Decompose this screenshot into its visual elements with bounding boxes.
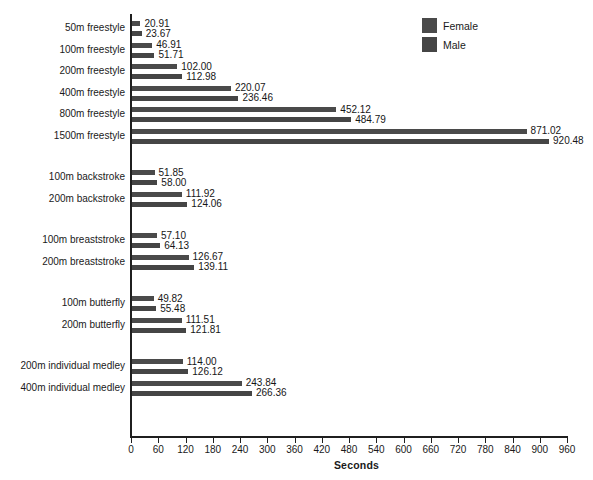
x-tick-label: 180 [204, 444, 221, 456]
bar-male-200m-freestyle [131, 74, 182, 79]
x-tick-label: 660 [422, 444, 439, 456]
bar-female-100m-butterfly [131, 296, 154, 301]
x-tick [267, 437, 268, 443]
category-label-200m-butterfly: 200m butterfly [0, 319, 125, 330]
x-axis-title-text: Seconds [334, 459, 379, 471]
bar-value-label: 139.11 [198, 261, 228, 272]
bar-female-100m-backstroke [131, 170, 155, 175]
category-label-200m-backstroke: 200m backstroke [0, 193, 125, 204]
bar-male-100m-backstroke [131, 180, 157, 185]
bar-value-label: 920.48 [553, 135, 584, 146]
x-tick [131, 437, 132, 443]
bar-female-400m-freestyle [131, 86, 231, 91]
bar-female-100m-breaststroke [131, 233, 157, 238]
legend-item-female: Female [422, 16, 478, 35]
category-label-100m-freestyle: 100m freestyle [0, 44, 125, 55]
category-label-100m-breaststroke: 100m breaststroke [0, 234, 125, 245]
bar-value-label: 112.98 [186, 71, 216, 82]
bar-value-label: 236.46 [242, 92, 273, 103]
x-tick [567, 437, 568, 443]
category-label-100m-backstroke: 100m backstroke [0, 171, 125, 182]
category-label-400m-freestyle: 400m freestyle [0, 87, 125, 98]
y-axis-line [130, 14, 132, 437]
bar-value-label: 58.00 [161, 177, 186, 188]
bar-female-200m-breaststroke [131, 255, 189, 260]
x-tick-label: 480 [341, 444, 358, 456]
x-tick [431, 437, 432, 443]
bar-value-label: 64.13 [164, 240, 189, 251]
x-tick [404, 437, 405, 443]
x-tick-label: 300 [259, 444, 276, 456]
bar-value-label: 55.48 [160, 303, 185, 314]
bar-value-label: 266.36 [256, 387, 287, 398]
bar-male-50m-freestyle [131, 31, 142, 36]
category-label-800m-freestyle: 800m freestyle [0, 108, 125, 119]
x-tick [186, 437, 187, 443]
x-tick-label: 240 [232, 444, 249, 456]
bar-female-200m-freestyle [131, 64, 177, 69]
x-tick-label: 120 [177, 444, 194, 456]
x-tick [213, 437, 214, 443]
bar-male-200m-backstroke [131, 202, 187, 207]
bar-female-400m-individual-medley [131, 381, 242, 386]
x-tick [349, 437, 350, 443]
x-tick [513, 437, 514, 443]
bar-value-label: 23.67 [146, 28, 171, 39]
bar-male-100m-breaststroke [131, 243, 160, 248]
category-label-200m-individual-medley: 200m individual medley [0, 360, 125, 371]
x-tick-label: 600 [395, 444, 412, 456]
bar-female-50m-freestyle [131, 21, 140, 26]
x-tick [240, 437, 241, 443]
x-tick-label: 900 [531, 444, 548, 456]
bar-male-800m-freestyle [131, 117, 351, 122]
bar-value-label: 126.12 [192, 366, 223, 377]
x-axis-title: Seconds [0, 459, 593, 471]
x-tick-label: 60 [153, 444, 164, 456]
bar-male-400m-individual-medley [131, 391, 252, 396]
bar-male-1500m-freestyle [131, 139, 549, 144]
bar-male-200m-butterfly [131, 328, 186, 333]
bar-male-100m-butterfly [131, 306, 156, 311]
bar-female-200m-backstroke [131, 192, 182, 197]
bar-female-200m-butterfly [131, 318, 182, 323]
x-tick-label: 960 [559, 444, 576, 456]
plot-area: 20.9123.6746.9151.71102.00112.98220.0723… [131, 14, 567, 437]
bar-value-label: 484.79 [355, 114, 386, 125]
x-tick-label: 780 [477, 444, 494, 456]
bar-value-label: 51.71 [158, 49, 183, 60]
bar-male-200m-individual-medley [131, 369, 188, 374]
bar-value-label: 121.81 [190, 324, 221, 335]
bar-male-400m-freestyle [131, 96, 238, 101]
category-label-200m-freestyle: 200m freestyle [0, 65, 125, 76]
category-label-400m-individual-medley: 400m individual medley [0, 382, 125, 393]
category-label-200m-breaststroke: 200m breaststroke [0, 256, 125, 267]
bar-value-label: 124.06 [191, 198, 222, 209]
legend-swatch-female [422, 18, 437, 33]
x-tick-label: 360 [286, 444, 303, 456]
legend-swatch-male [422, 37, 437, 52]
x-tick-label: 420 [313, 444, 330, 456]
x-tick [158, 437, 159, 443]
x-tick [485, 437, 486, 443]
x-tick-label: 540 [368, 444, 385, 456]
legend-item-male: Male [422, 35, 478, 54]
bar-female-100m-freestyle [131, 43, 152, 48]
x-tick [376, 437, 377, 443]
x-tick [540, 437, 541, 443]
category-label-50m-freestyle: 50m freestyle [0, 22, 125, 33]
bar-male-100m-freestyle [131, 53, 154, 58]
legend-label-female: Female [443, 20, 478, 32]
legend-label-male: Male [443, 39, 466, 51]
swimming-world-records-bar-chart: 50m freestyle100m freestyle200m freestyl… [0, 0, 593, 480]
category-label-100m-butterfly: 100m butterfly [0, 297, 125, 308]
category-label-1500m-freestyle: 1500m freestyle [0, 130, 125, 141]
legend: FemaleMale [422, 16, 478, 54]
bar-female-200m-individual-medley [131, 359, 183, 364]
x-tick-label: 720 [450, 444, 467, 456]
x-tick-label: 840 [504, 444, 521, 456]
bar-female-1500m-freestyle [131, 129, 527, 134]
x-tick [295, 437, 296, 443]
x-tick-label: 0 [128, 444, 134, 456]
x-tick [322, 437, 323, 443]
category-axis-labels: 50m freestyle100m freestyle200m freestyl… [0, 0, 125, 480]
